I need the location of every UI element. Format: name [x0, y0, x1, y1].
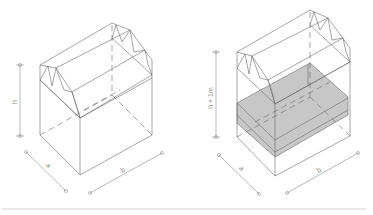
left-height-label: h	[11, 100, 18, 104]
left-dimension-a: a	[25, 151, 68, 193]
left-building	[40, 23, 152, 175]
right-building	[237, 10, 350, 176]
right-height-label: h + 1m	[207, 87, 214, 109]
left-walls-outline	[40, 75, 152, 175]
right-dimension-b: b	[286, 152, 360, 195]
left-dimension-b: b	[89, 152, 164, 195]
floor-slab	[237, 63, 348, 157]
diagram-canvas: h a b	[0, 0, 373, 215]
left-width-label: b	[119, 166, 126, 174]
left-depth-label: a	[45, 161, 53, 169]
right-width-label: b	[315, 166, 322, 174]
right-dimension-h: h + 1m	[207, 51, 220, 139]
right-dimension-a: a	[218, 154, 261, 196]
left-dimension-h: h	[11, 64, 24, 138]
right-depth-label: a	[238, 164, 246, 172]
